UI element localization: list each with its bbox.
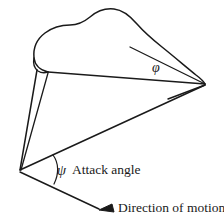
direction-of-motion-arrowhead (99, 204, 114, 212)
diagram-vector-graphic (0, 0, 224, 224)
lower-fin-edge-line (168, 85, 205, 99)
phi-angle-symbol: φ (152, 61, 160, 75)
figure-canvas: φ ψ Attack angle Direction of motion (0, 0, 224, 224)
trailing-edge-line (20, 85, 205, 170)
wing-leading-edge-line (48, 72, 205, 84)
attack-angle-label: Attack angle (72, 163, 141, 177)
direction-of-motion-label: Direction of motion (118, 201, 224, 215)
body-left-nose-path (34, 58, 48, 73)
psi-angle-symbol: ψ (57, 163, 66, 178)
